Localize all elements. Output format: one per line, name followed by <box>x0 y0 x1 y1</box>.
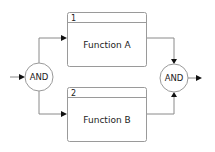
function-b-box[interactable]: 2 Function B <box>68 88 147 142</box>
join-and-gate[interactable]: AND <box>160 64 188 92</box>
output-arrowhead-icon <box>196 75 202 81</box>
function-a-number: 1 <box>71 14 76 23</box>
function-a-label: Function A <box>83 40 131 50</box>
input-arrowhead-icon <box>19 74 25 80</box>
function-b-label: Function B <box>83 115 130 125</box>
flow-diagram: 1 Function A 2 Function B AND AND <box>0 0 215 152</box>
split-to-function-a-connector <box>39 38 63 63</box>
split-and-gate[interactable]: AND <box>25 63 53 91</box>
join-gate-label: AND <box>165 73 184 83</box>
split-to-function-b-connector <box>39 91 63 114</box>
join-bottom-arrowhead-icon <box>171 92 177 97</box>
split-gate-label: AND <box>30 72 49 82</box>
function-b-to-join-connector <box>146 95 174 114</box>
function-a-to-join-connector <box>146 38 174 61</box>
function-a-arrowhead-icon <box>61 35 67 41</box>
function-b-number: 2 <box>71 89 76 98</box>
function-b-arrowhead-icon <box>61 111 67 117</box>
function-a-box[interactable]: 1 Function A <box>68 13 147 67</box>
join-top-arrowhead-icon <box>171 59 177 64</box>
